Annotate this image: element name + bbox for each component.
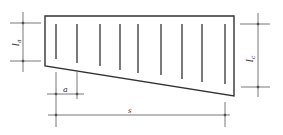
span-dimension [48,102,230,127]
bars-group [56,24,225,84]
right-dim-label: lc [245,55,256,62]
spacing-label: a [63,85,68,94]
trapezoid-bar-diagram: la lc a s [0,0,283,135]
right-dimension [240,13,270,97]
panel-outline [45,16,234,96]
span-label: s [128,107,132,115]
spacing-dimension [47,72,84,127]
left-dim-label: la [11,39,22,46]
